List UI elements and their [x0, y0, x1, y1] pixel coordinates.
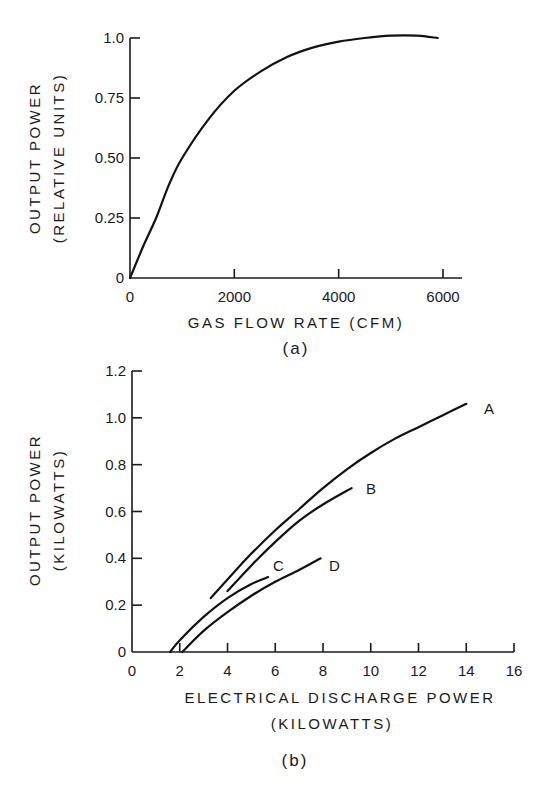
chart-b-panel-label: (b) [282, 751, 309, 770]
y-tick-label: 0.4 [105, 549, 126, 566]
x-tick-label: 2 [176, 662, 184, 679]
figure: 00.250.500.751.0 0200040006000 GAS FLOW … [0, 0, 547, 789]
x-tick-label: 2000 [218, 288, 251, 305]
chart-a-y-axis-title: OUTPUT POWER [26, 82, 43, 234]
y-tick-label: 0.6 [105, 503, 126, 520]
x-tick-label: 0 [126, 288, 134, 305]
x-tick-label: 12 [410, 662, 427, 679]
chart-a-curve [130, 35, 438, 278]
chart-b-curve-label-c: C [273, 557, 284, 574]
x-tick-label: 4 [223, 662, 231, 679]
chart-a-x-ticks: 0200040006000 [126, 269, 460, 305]
chart-b-y-ticks: 00.20.40.60.81.01.2 [105, 362, 142, 660]
x-tick-label: 4000 [322, 288, 355, 305]
y-tick-label: 0 [118, 643, 126, 660]
chart-a-panel-label: (a) [283, 339, 310, 358]
chart-a: 00.250.500.751.0 0200040006000 GAS FLOW … [26, 29, 462, 358]
y-tick-label: 0.75 [95, 89, 124, 106]
x-tick-label: 0 [128, 662, 136, 679]
chart-a-y-axis-subtitle: (RELATIVE UNITS) [50, 73, 67, 244]
chart-b: 00.20.40.60.81.01.2 0246810121416 A B C … [26, 362, 522, 770]
chart-b-y-axis-subtitle: (KILOWATTS) [50, 449, 67, 572]
x-tick-label: 6 [271, 662, 279, 679]
chart-b-curve-label-d: D [329, 557, 340, 574]
y-tick-label: 1.0 [103, 29, 124, 46]
y-tick-label: 1.2 [105, 362, 126, 379]
y-tick-label: 0.8 [105, 456, 126, 473]
chart-b-x-axis-title: ELECTRICAL DISCHARGE POWER [184, 689, 495, 706]
chart-b-x-axis-subtitle: (KILOWATTS) [271, 715, 394, 732]
y-tick-label: 0.50 [95, 149, 124, 166]
chart-a-x-axis-title: GAS FLOW RATE (CFM) [188, 314, 404, 331]
y-tick-label: 0 [116, 269, 124, 286]
y-tick-label: 0.2 [105, 596, 126, 613]
x-tick-label: 10 [362, 662, 379, 679]
chart-b-curve-d [182, 558, 321, 652]
y-tick-label: 1.0 [105, 409, 126, 426]
chart-b-curve-label-a: A [484, 400, 494, 417]
chart-a-y-ticks: 00.250.500.751.0 [95, 29, 140, 286]
y-tick-label: 0.25 [95, 209, 124, 226]
chart-b-y-axis-title: OUTPUT POWER [26, 434, 43, 586]
x-tick-label: 14 [458, 662, 475, 679]
x-tick-label: 16 [506, 662, 523, 679]
x-tick-label: 8 [319, 662, 327, 679]
chart-b-curve-label-b: B [366, 480, 376, 497]
x-tick-label: 6000 [426, 288, 459, 305]
